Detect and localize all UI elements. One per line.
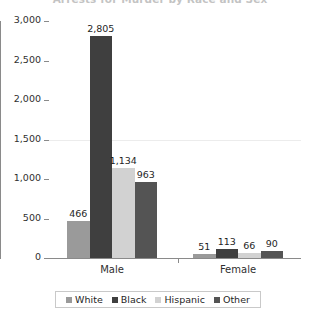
bar-value-label: 1,134 xyxy=(105,155,142,166)
bars-layer: 4662,8051,134963511136690 xyxy=(49,21,301,258)
legend-item[interactable]: Other xyxy=(214,294,250,305)
category-label: Female xyxy=(175,264,301,275)
y-tick-label: 3,000 xyxy=(0,14,41,25)
bar-value-label: 90 xyxy=(254,238,291,249)
bar[interactable] xyxy=(112,168,135,258)
legend-swatch-icon xyxy=(66,297,72,303)
legend-item[interactable]: Black xyxy=(112,294,147,305)
y-tick-label: 1,500 xyxy=(0,133,41,144)
bar[interactable] xyxy=(135,182,158,258)
bar[interactable] xyxy=(238,253,261,258)
legend-label: Black xyxy=(121,294,147,305)
x-axis-line xyxy=(49,258,301,259)
legend-label: White xyxy=(75,294,103,305)
y-tick xyxy=(44,258,49,259)
y-tick-label: 2,500 xyxy=(0,54,41,65)
y-tick-label: 2,000 xyxy=(0,93,41,104)
legend-label: Other xyxy=(223,294,250,305)
legend-label: Hispanic xyxy=(164,294,204,305)
legend-item[interactable]: Hispanic xyxy=(155,294,204,305)
chart-legend: WhiteBlackHispanicOther xyxy=(55,291,261,308)
legend-swatch-icon xyxy=(112,297,118,303)
y-tick-label: 1,000 xyxy=(0,172,41,183)
chart-title: Arrests for Murder by Race and Sex xyxy=(0,0,320,5)
legend-item[interactable]: White xyxy=(66,294,103,305)
y-tick-label: 500 xyxy=(0,212,41,223)
category-label: Male xyxy=(49,264,175,275)
bar[interactable] xyxy=(193,254,216,258)
bar[interactable] xyxy=(90,36,113,258)
bar-value-label: 2,805 xyxy=(83,23,120,34)
bar-value-label: 963 xyxy=(128,169,165,180)
bar[interactable] xyxy=(261,251,284,258)
y-tick-label: 0 xyxy=(0,251,41,262)
legend-swatch-icon xyxy=(155,297,161,303)
bar[interactable] xyxy=(67,221,90,258)
category-separator-tick xyxy=(178,258,179,263)
legend-swatch-icon xyxy=(214,297,220,303)
bar-chart: Arrests for Murder by Race and Sex 05001… xyxy=(0,0,320,318)
